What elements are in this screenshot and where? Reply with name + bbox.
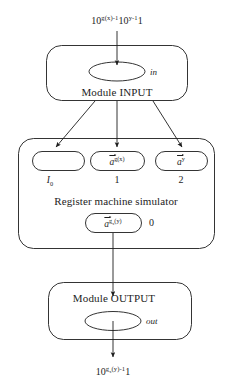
- register-1-index-label: 1: [115, 175, 120, 185]
- register-1-superscript: g(x): [114, 155, 124, 162]
- input-module-label: Module INPUT: [81, 87, 152, 98]
- input-module-port-label: in: [150, 68, 157, 77]
- register-2-content: ay: [177, 156, 185, 168]
- result-register-superscript-arg: (y): [114, 217, 121, 224]
- result-register-content: agx(y): [104, 218, 121, 230]
- output-expression-exponent-arg: (y)-1: [112, 365, 126, 372]
- output-expression-trailing: 1: [125, 366, 130, 377]
- simulator-label: Register machine simulator: [54, 196, 178, 207]
- register-0-index-label: I0: [47, 176, 53, 187]
- register-0-capsule: [33, 152, 85, 171]
- input-expression-trailing: 1: [138, 15, 143, 26]
- register-1-vector-symbol: a: [109, 158, 114, 168]
- register-2-index-label: 2: [179, 175, 184, 185]
- diagram-canvas: 10g(x)-110y-11 in Module INPUT I0 ag(x) …: [0, 0, 232, 390]
- input-expression-base2: 10: [118, 15, 128, 26]
- result-register-index-label: 0: [149, 218, 154, 228]
- result-register-vector-symbol: a: [104, 220, 109, 230]
- output-expression-base: 10: [96, 366, 106, 377]
- arrow-input-to-register-2: [153, 101, 182, 147]
- result-register-superscript: gx(y): [109, 217, 122, 224]
- input-expression: 10g(x)-110y-11: [91, 15, 143, 26]
- register-0-index-sub: 0: [50, 180, 53, 187]
- output-module-label: Module OUTPUT: [73, 293, 155, 304]
- input-expression-exponent1: g(x)-1: [101, 14, 118, 21]
- output-expression: 10gx(y)-11: [96, 366, 131, 377]
- output-module-port-label: out: [146, 317, 158, 326]
- input-expression-exponent2: y-1: [129, 14, 138, 21]
- output-expression-exponent: gx(y)-1: [106, 365, 125, 372]
- arrow-input-to-register-0: [56, 101, 95, 147]
- register-2-vector-symbol: a: [177, 158, 182, 168]
- input-expression-base1: 10: [91, 15, 101, 26]
- register-1-content: ag(x): [109, 156, 124, 168]
